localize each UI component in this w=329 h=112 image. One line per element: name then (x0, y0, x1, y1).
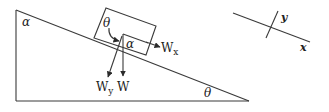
inclined-plane-diagram: α θ θ α Wx Wy W y x (0, 0, 329, 112)
top-angle-alpha-label: α (22, 15, 30, 29)
theta-curved-arrow (109, 28, 119, 41)
x-axis-label: x (299, 41, 307, 54)
force-wy-label: Wy (96, 80, 114, 96)
coordinate-axes: y x (233, 11, 310, 54)
incline-angle-theta-label: θ (204, 86, 212, 100)
y-axis-label: y (280, 11, 289, 24)
y-axis-line (266, 11, 278, 38)
force-wx-label: Wx (161, 41, 178, 57)
force-w-label: W (117, 80, 130, 94)
box-angle-alpha-label: α (126, 37, 134, 51)
weight-vector-wx (146, 42, 160, 47)
weight-vector-wy (108, 36, 122, 77)
box-angle-theta-label: θ (103, 16, 111, 30)
x-axis-line (233, 13, 310, 42)
triangle-hypotenuse (16, 10, 249, 101)
incline-triangle (16, 10, 249, 101)
